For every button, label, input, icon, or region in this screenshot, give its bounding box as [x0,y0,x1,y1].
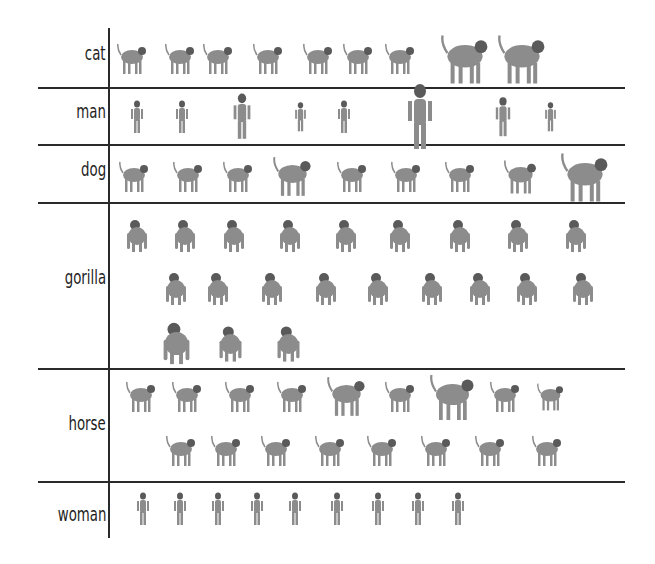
gorilla-pose-figure [257,270,287,308]
cat-pose-figure [343,40,373,78]
label-cat: cat [85,42,106,64]
man-pose-figure [167,98,197,136]
gorilla-pose-figure [203,270,233,308]
horse-pose-figure [315,432,345,470]
woman-pose-figure [128,490,158,528]
gorilla-pose-figure [272,323,305,365]
man-pose-figure [485,94,521,140]
dog-pose-figure [119,158,149,196]
gorilla-pose-figure [417,270,447,308]
cat-pose-figure [203,40,233,78]
horse-pose-figure [537,380,564,414]
horse-pose-figure [430,369,475,426]
man-pose-figure [221,90,263,143]
row-separator [38,368,625,370]
label-gorilla: gorilla [65,266,106,288]
dog-pose-figure [273,152,312,201]
man-pose-figure [537,100,564,134]
horse-pose-figure [126,378,156,416]
cat-pose-figure [165,40,195,78]
cat-pose-figure [303,40,333,78]
row-separator [38,481,625,483]
horse-pose-figure [532,432,562,470]
cat-pose-figure [498,29,546,90]
dog-pose-figure [561,147,609,208]
man-pose-figure [122,98,152,136]
horse-pose-figure [327,372,366,421]
man-pose-figure [287,100,314,134]
gorilla-pose-figure [122,217,152,255]
horse-pose-figure [172,378,202,416]
horse-pose-figure [166,432,196,470]
label-horse: horse [69,412,106,434]
woman-pose-figure [363,490,393,528]
woman-pose-figure [242,490,272,528]
label-man: man [76,100,106,122]
dog-pose-figure [173,158,203,196]
gorilla-pose-figure [170,217,200,255]
gorilla-pose-figure [503,217,533,255]
gorilla-pose-figure [275,217,305,255]
gorilla-pose-figure [445,217,475,255]
gorilla-pose-figure [512,270,542,308]
gorilla-pose-figure [561,217,591,255]
horse-pose-figure [261,432,291,470]
man-pose-figure [390,79,450,155]
horse-pose-figure [490,378,520,416]
gorilla-pose-figure [311,270,341,308]
gorilla-pose-figure [363,270,393,308]
gorilla-pose-figure [157,319,196,368]
row-separator [38,144,625,146]
horse-pose-figure [385,378,415,416]
horse-pose-figure [475,432,505,470]
woman-pose-figure [403,490,433,528]
gorilla-pose-figure [568,270,598,308]
man-pose-figure [329,98,359,136]
woman-pose-figure [280,490,310,528]
axis-divider-vertical [108,28,110,538]
cat-pose-figure [253,40,283,78]
label-woman: woman [57,503,106,525]
woman-pose-figure [165,490,195,528]
cat-pose-figure [117,40,147,78]
gorilla-pose-figure [385,217,415,255]
gorilla-pose-figure [331,217,361,255]
gorilla-pose-figure [465,270,495,308]
horse-pose-figure [367,432,397,470]
woman-pose-figure [322,490,352,528]
horse-pose-figure [211,432,241,470]
dog-pose-figure [445,158,475,196]
dog-pose-figure [223,158,253,196]
gorilla-pose-figure [214,323,247,365]
dog-pose-figure [337,158,367,196]
woman-pose-figure [203,490,233,528]
gorilla-pose-figure [219,217,249,255]
woman-pose-figure [443,490,473,528]
dog-pose-figure [504,156,537,198]
label-dog: dog [81,158,106,180]
horse-pose-figure [225,378,255,416]
row-separator [38,202,625,204]
horse-pose-figure [277,378,307,416]
cat-pose-figure [385,40,415,78]
horse-pose-figure [421,432,451,470]
gorilla-pose-figure [161,270,191,308]
dog-pose-figure [391,158,421,196]
